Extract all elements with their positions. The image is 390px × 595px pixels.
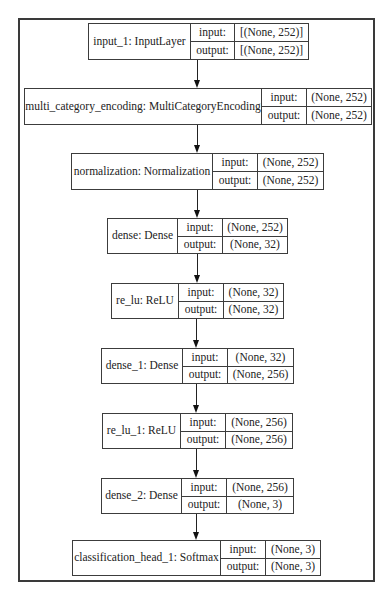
output-shape: (None, 256) bbox=[228, 367, 293, 384]
input-label: input: bbox=[183, 349, 227, 367]
input-shape: (None, 252) bbox=[223, 219, 287, 237]
arrow-down-icon bbox=[193, 340, 199, 348]
output-shape: (None, 3) bbox=[266, 559, 320, 576]
edge-line bbox=[197, 125, 198, 146]
input-label: input: bbox=[181, 414, 225, 432]
arrow-down-icon bbox=[193, 405, 199, 413]
node-normalization: normalization: Normalization input: outp… bbox=[71, 153, 324, 190]
arrow-down-icon bbox=[193, 470, 199, 478]
output-shape: [(None, 252)] bbox=[235, 42, 308, 59]
output-shape: (None, 256) bbox=[226, 432, 292, 449]
edge-line bbox=[197, 60, 198, 81]
input-shape: (None, 256) bbox=[227, 479, 293, 497]
node-dense-1: dense_1: Dense input: output: (None, 32)… bbox=[101, 348, 294, 384]
output-shape: (None, 252) bbox=[258, 172, 323, 189]
node-re-lu: re_lu: ReLU input: output: (None, 32) (N… bbox=[111, 283, 284, 319]
arrow-down-icon bbox=[194, 80, 200, 88]
output-label: output: bbox=[213, 172, 257, 189]
input-shape: (None, 32) bbox=[228, 349, 293, 367]
node-label: dense: Dense bbox=[108, 219, 178, 253]
node-label: classification_head_1: Softmax bbox=[73, 541, 221, 575]
node-dense-2: dense_2: Dense input: output: (None, 256… bbox=[101, 478, 294, 514]
output-shape: (None, 3) bbox=[227, 497, 293, 514]
output-label: output: bbox=[191, 42, 234, 59]
node-label: dense_1: Dense bbox=[102, 349, 183, 383]
edge-line bbox=[197, 254, 198, 276]
node-label: dense_2: Dense bbox=[102, 479, 182, 513]
edge-line bbox=[196, 319, 197, 341]
edge-line bbox=[196, 514, 197, 533]
node-label: re_lu_1: ReLU bbox=[103, 414, 181, 448]
output-label: output: bbox=[181, 432, 225, 449]
arrow-down-icon bbox=[194, 145, 200, 153]
output-label: output: bbox=[262, 107, 306, 124]
input-label: input: bbox=[213, 154, 257, 172]
output-label: output: bbox=[178, 237, 222, 254]
output-shape: (None, 252) bbox=[307, 107, 371, 124]
input-shape: (None, 256) bbox=[226, 414, 292, 432]
output-shape: (None, 32) bbox=[223, 237, 287, 254]
input-label: input: bbox=[262, 89, 306, 107]
node-classification-head-1: classification_head_1: Softmax input: ou… bbox=[72, 540, 321, 576]
input-shape: (None, 252) bbox=[307, 89, 371, 107]
input-shape: (None, 252) bbox=[258, 154, 323, 172]
output-label: output: bbox=[221, 559, 265, 576]
arrow-down-icon bbox=[194, 275, 200, 283]
input-shape: (None, 32) bbox=[224, 284, 283, 302]
node-multi-category-encoding: multi_category_encoding: MultiCategoryEn… bbox=[24, 88, 372, 125]
output-shape: (None, 32) bbox=[224, 302, 283, 319]
node-input-1: input_1: InputLayer input: output: [(Non… bbox=[88, 23, 309, 60]
edge-line bbox=[196, 449, 197, 471]
input-shape: [(None, 252)] bbox=[235, 24, 308, 42]
node-label: input_1: InputLayer bbox=[89, 24, 191, 59]
input-label: input: bbox=[182, 479, 226, 497]
arrow-down-icon bbox=[194, 210, 200, 218]
node-re-lu-1: re_lu_1: ReLU input: output: (None, 256)… bbox=[102, 413, 293, 449]
output-label: output: bbox=[179, 302, 223, 319]
output-label: output: bbox=[182, 497, 226, 514]
output-label: output: bbox=[183, 367, 227, 384]
input-label: input: bbox=[191, 24, 234, 42]
node-label: normalization: Normalization bbox=[72, 154, 213, 189]
input-shape: (None, 3) bbox=[266, 541, 320, 559]
node-label: re_lu: ReLU bbox=[112, 284, 179, 318]
input-label: input: bbox=[221, 541, 265, 559]
edge-line bbox=[197, 190, 198, 211]
arrow-down-icon bbox=[193, 532, 199, 540]
input-label: input: bbox=[179, 284, 223, 302]
node-dense: dense: Dense input: output: (None, 252) … bbox=[107, 218, 288, 254]
input-label: input: bbox=[178, 219, 222, 237]
edge-line bbox=[196, 384, 197, 406]
node-label: multi_category_encoding: MultiCategoryEn… bbox=[25, 89, 262, 124]
